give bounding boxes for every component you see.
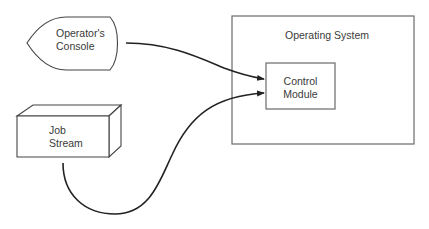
job-stream-label: Job Stream — [49, 124, 83, 149]
job-stream-label-line2: Stream — [49, 137, 83, 149]
console-label: Operator's Console — [56, 27, 105, 52]
operating-system-label: Operating System — [285, 29, 369, 41]
console-label-line2: Console — [56, 40, 105, 52]
control-module-label-line1: Control — [266, 75, 335, 87]
arrow-console-to-control — [126, 43, 264, 79]
console-label-line1: Operator's — [56, 27, 105, 39]
job-stream-label-line1: Job — [49, 124, 83, 136]
control-module-label-line2: Module — [266, 88, 335, 100]
control-module-label: Control Module — [266, 75, 335, 100]
